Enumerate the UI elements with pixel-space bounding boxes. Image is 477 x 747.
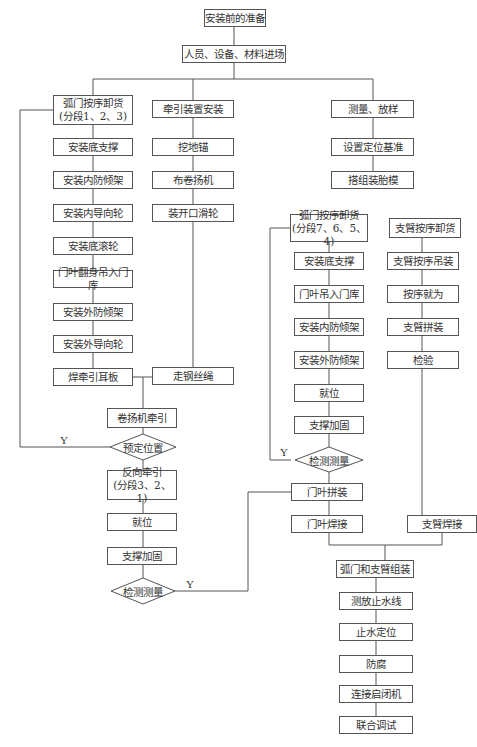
node-entry: 人员、设备、材料进场 — [182, 45, 286, 63]
node-l-inner-frame: 安装内防倾架 — [53, 171, 133, 189]
node-anticorrosion: 防腐 — [339, 655, 413, 673]
node-leaf-weld: 门叶焊接 — [291, 515, 363, 533]
node-a-assemble: 支臂拼装 — [387, 318, 459, 336]
node-prep: 安装前的准备 — [204, 9, 266, 27]
node-t-winch: 布卷扬机 — [152, 171, 234, 189]
node-waterstop-pos: 止水定位 — [339, 623, 413, 641]
loop-connector — [270, 228, 291, 460]
node-r-in-place: 就位 — [294, 384, 364, 402]
node-s-jig: 搭组装胎模 — [331, 171, 414, 189]
node-a-hoist: 支臂按序吊装 — [387, 252, 459, 270]
node-t-wire: 走钢丝绳 — [152, 367, 234, 385]
node-a-weld: 支臂焊接 — [407, 515, 477, 533]
loop-connector — [175, 492, 291, 591]
node-t-anchor: 挖地锚 — [152, 138, 234, 156]
node-joint-test: 联合调试 — [339, 716, 413, 734]
node-r-leaf-in: 门叶吊入门库 — [294, 285, 364, 303]
node-l-base-support: 安装底支撑 — [53, 138, 133, 156]
node-unload2: 弧门按序卸货 (分段7、6、5、4) — [290, 214, 368, 242]
node-winch-pull: 卷扬机牵引 — [107, 408, 177, 428]
node-l-bottom-roller: 安装底滚轮 — [53, 237, 133, 255]
node-a-unload: 支臂按序卸货 — [389, 218, 461, 238]
node-r-inner-frame: 安装内防倾架 — [294, 318, 364, 336]
node-r-base-support: 安装底支撑 — [294, 252, 364, 270]
node-unload1: 弧门按序卸货 (分段1、2、3) — [53, 95, 133, 125]
node-traction-setup: 牵引装置安装 — [152, 100, 234, 118]
node-waterstop-line: 测放止水线 — [339, 592, 413, 610]
node-r-reinforce: 支撑加固 — [294, 416, 364, 434]
node-a-check: 检验 — [387, 351, 459, 369]
node-l-leaf-flip: 门叶翻身吊入门库 — [53, 270, 133, 288]
connector — [329, 533, 442, 545]
yes-label-inspect2: Y — [280, 446, 288, 458]
node-leaf-assemble: 门叶拼装 — [291, 483, 363, 501]
node-hoist-connect: 连接启闭机 — [339, 685, 413, 703]
node-l-in-place: 就位 — [107, 513, 177, 531]
node-gate-arm-assembly: 弧门和支臂组装 — [336, 560, 414, 578]
node-r-outer-frame: 安装外防倾架 — [294, 351, 364, 369]
node-l-outer-guide: 安装外导向轮 — [53, 335, 133, 353]
yes-label-preset: Y — [60, 434, 68, 446]
node-l-reinforce: 支撑加固 — [107, 547, 177, 565]
node-reverse-pull: 反向牵引 (分段3、2、1) — [107, 470, 177, 500]
decision-inspect2-label: 检测测量 — [296, 451, 362, 469]
decision-preset-label: 预定位置 — [110, 438, 176, 456]
decision-inspect1-label: 检测测量 — [111, 582, 175, 600]
node-l-inner-guide: 安装内导向轮 — [53, 204, 133, 222]
node-l-weld-plate: 焊牵引耳板 — [53, 368, 133, 386]
node-t-pulley: 装开口滑轮 — [152, 204, 234, 222]
node-a-position: 按序就为 — [387, 285, 459, 303]
node-s-datum: 设置定位基准 — [331, 138, 414, 156]
yes-label-inspect1: Y — [186, 578, 194, 590]
node-l-outer-frame: 安装外防倾架 — [53, 303, 133, 321]
node-survey: 测量、放样 — [331, 100, 414, 118]
